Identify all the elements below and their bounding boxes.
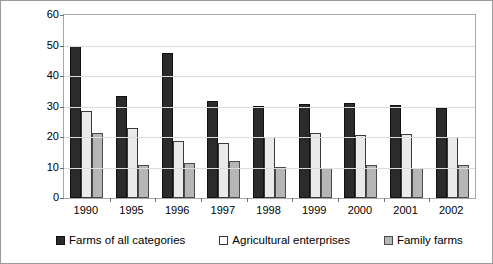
x-axis-tick-label: 2002 bbox=[428, 202, 474, 218]
legend-label: Family farms bbox=[397, 234, 463, 247]
bar bbox=[321, 168, 332, 198]
bar bbox=[127, 128, 138, 198]
y-axis-tick-label: 40 bbox=[37, 70, 59, 81]
y-axis-tick-label: 60 bbox=[37, 9, 59, 20]
legend-item: Family farms bbox=[384, 234, 463, 247]
bar bbox=[92, 133, 103, 198]
gridline bbox=[64, 46, 475, 47]
dark-square-icon bbox=[56, 236, 65, 245]
bar bbox=[412, 168, 423, 199]
gridline bbox=[64, 76, 475, 77]
bar bbox=[344, 103, 355, 198]
x-axis-tick-label: 1995 bbox=[109, 202, 155, 218]
bar bbox=[299, 104, 310, 198]
y-axis-tick-label: 0 bbox=[37, 192, 59, 203]
gridline bbox=[64, 107, 475, 108]
gridline bbox=[64, 137, 475, 138]
y-axis-tick bbox=[60, 107, 64, 108]
gray-square-icon bbox=[384, 236, 393, 245]
legend-label: Agricultural enterprises bbox=[232, 234, 350, 247]
bar bbox=[355, 135, 366, 198]
bar bbox=[207, 101, 218, 198]
y-axis-tick-label: 30 bbox=[37, 101, 59, 112]
bar bbox=[401, 134, 412, 198]
x-axis-tick-label: 1998 bbox=[246, 202, 292, 218]
legend-item: Farms of all categories bbox=[56, 234, 185, 247]
bar bbox=[275, 167, 286, 198]
x-axis-tick-label: 1999 bbox=[291, 202, 337, 218]
bar bbox=[436, 108, 447, 198]
bar bbox=[366, 165, 377, 198]
bar bbox=[253, 106, 264, 198]
y-axis-tick bbox=[60, 46, 64, 47]
y-axis-tick-label: 20 bbox=[37, 131, 59, 142]
legend-item: Agricultural enterprises bbox=[219, 234, 350, 247]
chart-legend: Farms of all categoriesAgricultural ente… bbox=[56, 232, 446, 248]
y-axis-tick-labels: 6050403020100 bbox=[37, 7, 59, 199]
x-axis-tick-label: 1990 bbox=[63, 202, 109, 218]
x-axis-tick-label: 2000 bbox=[337, 202, 383, 218]
bar bbox=[458, 165, 469, 198]
y-axis-tick bbox=[60, 137, 64, 138]
x-axis-tick-label: 1997 bbox=[200, 202, 246, 218]
y-axis-tick bbox=[60, 168, 64, 169]
bar bbox=[116, 96, 127, 198]
bar bbox=[138, 165, 149, 198]
bar bbox=[173, 141, 184, 198]
white-square-icon bbox=[219, 236, 228, 245]
x-axis-tick-label: 2001 bbox=[383, 202, 429, 218]
bar bbox=[310, 133, 321, 198]
y-axis-tick bbox=[60, 15, 64, 16]
legend-label: Farms of all categories bbox=[69, 234, 185, 247]
y-axis-tick bbox=[60, 76, 64, 77]
bar bbox=[218, 143, 229, 198]
bar-chart: Poultry population, millions 60504030201… bbox=[0, 0, 493, 264]
x-axis-tick-label: 1996 bbox=[154, 202, 200, 218]
y-axis-tick bbox=[60, 198, 64, 199]
x-axis-tick-labels: 199019951996199719981999200020012002 bbox=[63, 202, 474, 218]
bar bbox=[81, 111, 92, 198]
bar bbox=[70, 46, 81, 198]
y-axis-tick-label: 10 bbox=[37, 162, 59, 173]
bar bbox=[162, 53, 173, 198]
y-axis-tick-label: 50 bbox=[37, 40, 59, 51]
bar bbox=[390, 105, 401, 198]
plot-area bbox=[63, 14, 476, 199]
gridline bbox=[64, 168, 475, 169]
